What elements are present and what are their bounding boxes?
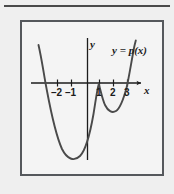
x-tick-label-neg1: –1 — [65, 88, 76, 98]
y-axis-label: y — [90, 39, 95, 50]
curve-equation-label: y = p(x) — [112, 45, 147, 56]
x-tick-label-3: 3 — [124, 88, 130, 98]
x-tick-label-1: 1 — [96, 88, 102, 98]
x-tick-label-neg2: –2 — [51, 88, 62, 98]
x-axis-label: x — [144, 85, 150, 96]
x-tick-label-2: 2 — [110, 88, 116, 98]
top-divider-rule — [4, 5, 170, 7]
figure-screenshot: –2 –1 1 2 3 y x y = p(x) — [0, 0, 174, 194]
